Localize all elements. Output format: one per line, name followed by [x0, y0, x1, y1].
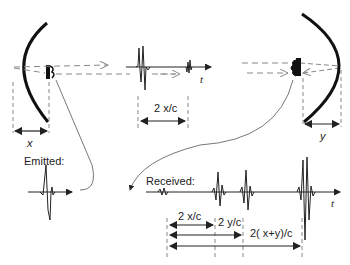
interval-2xy-label: 2( x+y)/c: [250, 228, 292, 239]
received-pulse-2xy: [297, 157, 315, 240]
received-label: Received:: [146, 176, 195, 187]
received-pulse-2x: [212, 172, 226, 206]
right-reflector: [302, 14, 339, 122]
top-interval-label: 2 x/c: [154, 103, 177, 114]
left-transducer: [46, 65, 54, 79]
connector-transducer-to-emitted: [56, 80, 94, 190]
interval-2y-label: 2 y/c: [218, 217, 241, 228]
x-distance-label: x: [27, 138, 33, 149]
beam-right-refl-upper: [300, 63, 340, 66]
beam-left-upper: [14, 65, 108, 67]
top-pulse-large: [136, 46, 150, 90]
echo-diagram: t t: [0, 0, 350, 265]
connector-transducer-to-received: [130, 80, 293, 190]
top-t-label: t: [200, 73, 204, 85]
beam-right-refl-lower: [303, 68, 340, 73]
interval-2x-label: 2 x/c: [178, 211, 201, 222]
y-distance-label: y: [320, 131, 326, 142]
received-pulse-2y: [240, 170, 254, 210]
beam-left-lower: [14, 68, 45, 73]
emitted-label: Emitted:: [24, 156, 64, 167]
right-transducer: [291, 58, 301, 76]
bottom-t-label: t: [331, 197, 335, 209]
